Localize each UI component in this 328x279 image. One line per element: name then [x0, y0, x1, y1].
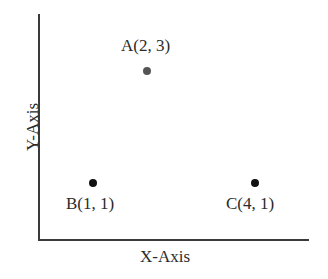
point-b [89, 179, 97, 187]
point-a [143, 67, 151, 75]
x-axis-line [38, 239, 309, 241]
point-c-label: C(4, 1) [226, 195, 274, 212]
point-c [251, 179, 259, 187]
y-axis-label: Y-Axis [24, 103, 41, 151]
point-a-label: A(2, 3) [121, 37, 170, 54]
point-b-label: B(1, 1) [66, 195, 114, 212]
x-axis-label: X-Axis [140, 248, 190, 265]
